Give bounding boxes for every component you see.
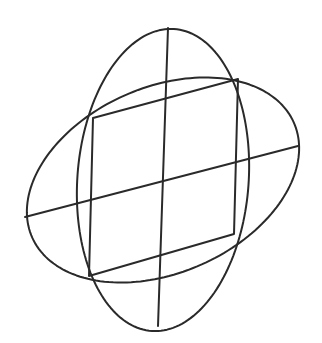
vertical-diameter-line [158,28,168,326]
diagram-canvas [0,0,322,343]
